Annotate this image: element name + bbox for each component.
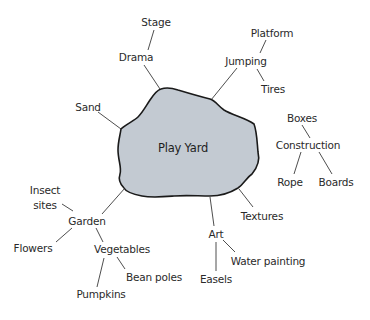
node-insect-sites-line2: sites (30, 199, 60, 211)
edge-drama-stage (148, 30, 154, 50)
edge-boxes-construction (302, 125, 310, 138)
node-easels: Easels (200, 273, 232, 285)
edge-garden-flowers (56, 228, 72, 242)
node-flowers: Flowers (14, 242, 53, 254)
edge-construction-rope (294, 152, 301, 174)
edge-garden-insect-sites (62, 204, 73, 211)
edge-art-water-painting (223, 240, 235, 252)
edge-playyard-textures (239, 189, 253, 207)
node-garden: Garden (68, 215, 105, 227)
node-drama: Drama (119, 51, 154, 63)
diagram-canvas (0, 0, 370, 320)
node-construction: Construction (276, 139, 340, 151)
node-stage: Stage (141, 16, 170, 28)
node-insect-sites-line1: Insect (30, 184, 60, 196)
edge-playyard-garden (102, 188, 125, 214)
node-vegetables: Vegetables (94, 243, 150, 255)
edge-playyard-art (210, 197, 214, 226)
node-rope: Rope (277, 176, 303, 188)
edge-playyard-sand (98, 112, 121, 129)
node-sand: Sand (75, 101, 101, 113)
edge-vegetables-bean-poles (117, 257, 125, 269)
node-platform: Platform (251, 27, 294, 39)
center-label-play-yard: Play Yard (158, 142, 208, 154)
edge-jumping-tires (257, 69, 264, 81)
node-insect-sites: Insect sites (30, 184, 60, 211)
node-tires: Tires (261, 83, 285, 95)
edge-jumping-platform (260, 40, 266, 53)
edge-construction-boards (319, 152, 332, 174)
node-water-painting: Water painting (231, 255, 306, 267)
node-boards: Boards (318, 176, 353, 188)
node-jumping: Jumping (225, 55, 266, 67)
edge-playyard-jumping (211, 68, 237, 100)
node-art: Art (208, 228, 223, 240)
node-bean-poles: Bean poles (126, 271, 182, 283)
node-textures: Textures (241, 210, 283, 222)
edge-playyard-drama (144, 65, 160, 89)
edge-vegetables-pumpkins (97, 258, 104, 287)
concept-web-diagram: Play Yard Stage Drama Sand Platform Jump… (0, 0, 370, 320)
node-boxes: Boxes (287, 112, 317, 124)
node-pumpkins: Pumpkins (76, 288, 125, 300)
edge-garden-vegetables (96, 228, 103, 242)
